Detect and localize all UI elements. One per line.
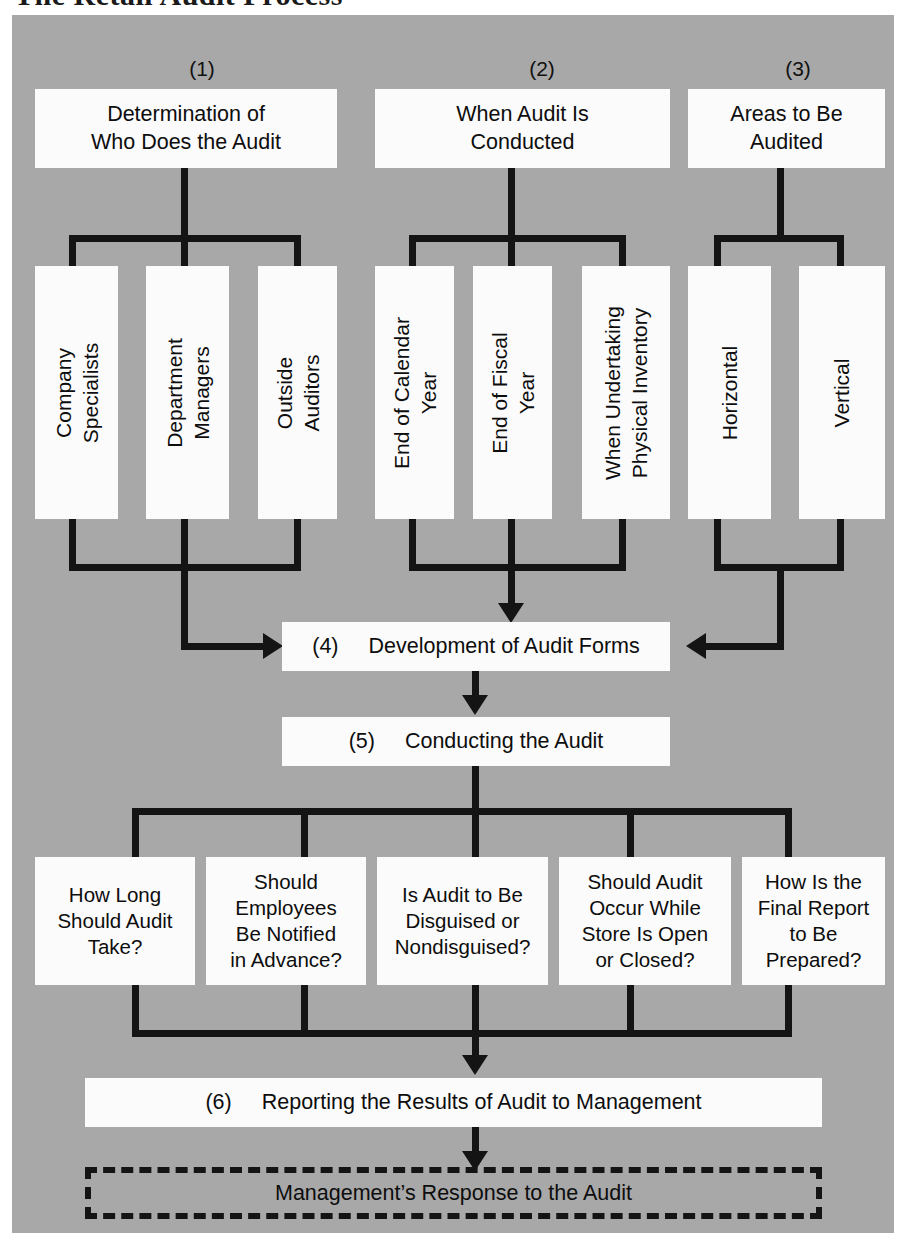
question-bracket-drop-5 bbox=[785, 808, 792, 860]
stage4-to-stage5-arrow bbox=[462, 695, 488, 715]
vbox-horizontal: Horizontal bbox=[688, 266, 771, 519]
question-5-line3: to Be bbox=[758, 921, 870, 947]
question-3-line1: Is Audit to Be bbox=[395, 882, 531, 908]
vbox-end-of-fiscal-year-text: End of Fiscal Year bbox=[485, 332, 540, 453]
question-3-line3: Nondisguised? bbox=[395, 934, 531, 960]
vbox-end-of-fiscal-year: End of Fiscal Year bbox=[473, 266, 552, 519]
vbox-line1: When Undertaking bbox=[599, 306, 626, 480]
vbox-when-undertaking-physical-inventory-text: When Undertaking Physical Inventory bbox=[599, 306, 654, 480]
question-2-line3: Be Notified bbox=[230, 921, 342, 947]
group-2-arrow-into-stage4 bbox=[498, 603, 524, 623]
vbox-line1: Horizontal bbox=[716, 345, 743, 440]
question-box-5: How Is the Final Report to Be Prepared? bbox=[742, 857, 885, 985]
group-3-heading-box: Areas to Be Audited bbox=[688, 89, 885, 168]
group-2-bracket-bar bbox=[409, 235, 626, 242]
vbox-vertical: Vertical bbox=[799, 266, 885, 519]
question-4-line1: Should Audit bbox=[582, 869, 708, 895]
group-3-bracket-bar bbox=[714, 235, 844, 242]
question-bracket-drop-4 bbox=[627, 808, 634, 860]
stage-4-label: Development of Audit Forms bbox=[369, 634, 640, 658]
vbox-line1: Vertical bbox=[828, 358, 855, 427]
group-2-collect-bar bbox=[409, 564, 626, 571]
question-bracket-drop-1 bbox=[132, 808, 139, 860]
question-collect-arrow-into-stage6 bbox=[462, 1055, 488, 1075]
group-2-heading-line1: When Audit Is bbox=[456, 101, 589, 129]
question-box-2: Should Employees Be Notified in Advance? bbox=[206, 857, 366, 985]
vbox-line1: Company bbox=[49, 342, 76, 442]
question-2-line1: Should bbox=[230, 869, 342, 895]
question-4-line2: Occur While bbox=[582, 895, 708, 921]
question-3-line2: Disguised or bbox=[395, 908, 531, 934]
question-box-1: How Long Should Audit Take? bbox=[35, 857, 195, 985]
vbox-line2: Physical Inventory bbox=[626, 306, 653, 480]
group-3-number: (3) bbox=[768, 57, 828, 81]
question-4-line4: or Closed? bbox=[582, 947, 708, 973]
management-response-label: Management’s Response to the Audit bbox=[275, 1181, 632, 1206]
group-1-stem-down bbox=[181, 168, 188, 238]
question-bracket-drop-3 bbox=[472, 808, 479, 860]
vbox-department-managers-text: Department Managers bbox=[160, 338, 215, 448]
diagram-page: The Retail Audit Process (1) (2) (3) Det… bbox=[0, 0, 906, 1240]
question-1-line3: Take? bbox=[57, 934, 172, 960]
question-4-line3: Store Is Open bbox=[582, 921, 708, 947]
group-3-stem-down bbox=[777, 168, 784, 238]
question-bracket-drop-2 bbox=[301, 808, 308, 860]
page-title: The Retail Audit Process bbox=[14, 0, 343, 12]
stage-6-number: (6) bbox=[205, 1089, 231, 1117]
group-2-stem-down bbox=[508, 168, 515, 238]
vbox-company-specialists: Company Specialists bbox=[35, 266, 118, 519]
group-2-heading-line2: Conducted bbox=[456, 129, 589, 157]
group-2-heading-box: When Audit Is Conducted bbox=[375, 89, 670, 168]
group-1-number: (1) bbox=[172, 57, 232, 81]
question-collect-bar bbox=[132, 1030, 792, 1037]
vbox-department-managers: Department Managers bbox=[146, 266, 229, 519]
stage5-stem-down bbox=[472, 766, 479, 814]
vbox-line2: Specialists bbox=[77, 342, 104, 442]
group-3-heading-line2: Audited bbox=[730, 129, 842, 157]
stage-6-box: (6)Reporting the Results of Audit to Man… bbox=[85, 1078, 822, 1127]
group-3-heading-line1: Areas to Be bbox=[730, 101, 842, 129]
group-1-heading-box: Determination of Who Does the Audit bbox=[35, 89, 337, 168]
group-3-collect-stem-down bbox=[777, 564, 784, 650]
vbox-line1: End of Calendar bbox=[387, 317, 414, 469]
stage-5-box: (5)Conducting the Audit bbox=[282, 717, 670, 766]
vbox-company-specialists-text: Company Specialists bbox=[49, 342, 104, 442]
question-1-line1: How Long bbox=[57, 882, 172, 908]
vbox-horizontal-text: Horizontal bbox=[716, 345, 743, 440]
stage-5-label: Conducting the Audit bbox=[405, 729, 603, 753]
question-5-line1: How Is the bbox=[758, 869, 870, 895]
question-bracket-bar bbox=[132, 808, 792, 815]
vbox-line2: Managers bbox=[188, 338, 215, 448]
group-3-arrow-into-stage4 bbox=[686, 633, 706, 659]
vbox-vertical-text: Vertical bbox=[828, 358, 855, 427]
question-2-line4: in Advance? bbox=[230, 947, 342, 973]
vbox-end-of-calendar-year: End of Calendar Year bbox=[375, 266, 454, 519]
group-3-collect-run-left bbox=[706, 643, 784, 650]
group-1-heading-line2: Who Does the Audit bbox=[91, 129, 281, 157]
stage-5-number: (5) bbox=[349, 728, 375, 756]
management-response-box: Management’s Response to the Audit bbox=[85, 1167, 822, 1219]
group-1-collect-run-right bbox=[181, 643, 265, 650]
vbox-line2: Year bbox=[415, 317, 442, 469]
stage-4-number: (4) bbox=[312, 633, 338, 661]
stage-4-box: (4)Development of Audit Forms bbox=[282, 622, 670, 671]
group-1-heading-line1: Determination of bbox=[91, 101, 281, 129]
vbox-end-of-calendar-year-text: End of Calendar Year bbox=[387, 317, 442, 469]
group-1-collect-stem-down bbox=[181, 564, 188, 650]
vbox-outside-auditors: Outside Auditors bbox=[258, 266, 337, 519]
vbox-outside-auditors-text: Outside Auditors bbox=[270, 354, 325, 431]
vbox-line2: Auditors bbox=[298, 354, 325, 431]
vbox-line1: Outside bbox=[270, 354, 297, 431]
question-2-line2: Employees bbox=[230, 895, 342, 921]
question-box-4: Should Audit Occur While Store Is Open o… bbox=[559, 857, 731, 985]
question-box-3: Is Audit to Be Disguised or Nondisguised… bbox=[377, 857, 548, 985]
vbox-line1: Department bbox=[160, 338, 187, 448]
vbox-line2: Year bbox=[513, 332, 540, 453]
vbox-when-undertaking-physical-inventory: When Undertaking Physical Inventory bbox=[582, 266, 670, 519]
group-2-collect-stem-down bbox=[508, 564, 515, 608]
group-2-number: (2) bbox=[512, 57, 572, 81]
page-title-strip: The Retail Audit Process bbox=[0, 0, 906, 14]
group-1-arrow-into-stage4 bbox=[263, 633, 283, 659]
question-5-line4: Prepared? bbox=[758, 947, 870, 973]
vbox-line1: End of Fiscal bbox=[485, 332, 512, 453]
